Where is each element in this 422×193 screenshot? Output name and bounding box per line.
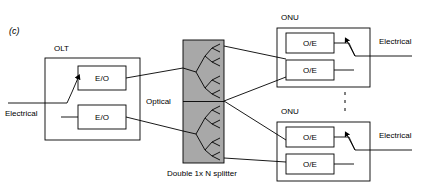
olt-input-label: Electrical xyxy=(5,110,37,118)
diagram-svg xyxy=(0,0,422,193)
optical-medium-label: Optical xyxy=(146,98,171,106)
splitter-caption: Double 1x N splitter xyxy=(167,170,237,178)
onu1-converter-label-1: O/E xyxy=(286,33,334,53)
onu2-output-label: Electrical xyxy=(379,132,411,140)
onu-title-1: ONU xyxy=(281,14,299,22)
olt-converter-label-1: E/O xyxy=(78,66,126,90)
panel-label: (c) xyxy=(9,27,20,36)
onu2-converter-label-2: O/E xyxy=(286,154,334,174)
onu1-output-label: Electrical xyxy=(379,38,411,46)
onu1-converter-label-2: O/E xyxy=(286,60,334,80)
onu-title-2: ONU xyxy=(281,108,299,116)
olt-title: OLT xyxy=(54,45,69,53)
olt-converter-label-2: E/O xyxy=(78,105,126,129)
onu2-converter-label-1: O/E xyxy=(286,127,334,147)
figure-canvas: (c) OLT Electrical E/O E/O Optical Doubl… xyxy=(0,0,422,193)
